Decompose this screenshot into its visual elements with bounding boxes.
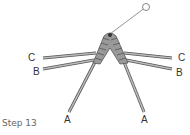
label-left-c: C bbox=[28, 53, 35, 63]
label-left-b: B bbox=[33, 67, 40, 77]
label-left-a: A bbox=[64, 115, 71, 125]
knot-illustration bbox=[0, 0, 190, 135]
label-right-b: B bbox=[176, 68, 183, 78]
label-right-c: C bbox=[178, 53, 185, 63]
step-caption: Step 13 bbox=[2, 118, 37, 128]
diagram: C B A C B A Step 13 bbox=[0, 0, 190, 135]
label-right-a: A bbox=[141, 115, 148, 125]
